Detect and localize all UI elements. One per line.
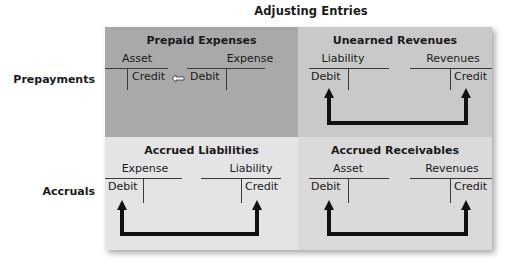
t-account-divider [348,178,349,203]
t-account-divider [143,178,144,203]
t-account-divider [450,68,451,90]
t-account-name-liability: Liability [308,52,378,65]
cell-title: Accrued Liabilities [105,144,298,157]
t-account-name-expense: Expense [107,162,183,175]
t-account-top-line [309,178,389,179]
t-account-top-line [309,68,389,69]
t-account-side-debit: Debit [311,180,341,193]
t-account-divider [241,178,242,203]
bracket-arrow-connector [327,209,468,236]
t-account-name-asset: Asset [107,52,167,65]
t-account-divider [226,68,227,90]
adjusting-entries-grid: Prepaid Expenses Asset Credit Expense De… [105,27,492,250]
t-account-name-revenues: Revenues [411,162,493,175]
row-label-prepayments: Prepayments [0,73,95,86]
bracket-arrow-connector [120,209,259,236]
t-account-top-line [105,68,168,69]
cell-prepaid-expenses: Prepaid Expenses Asset Credit Expense De… [105,27,298,137]
t-account-side-credit: Credit [454,70,487,83]
cell-unearned-revenues: Unearned Revenues Liability Debit Revenu… [298,27,492,137]
t-account-name-liability: Liability [211,162,291,175]
diagram-title: Adjusting Entries [0,4,522,18]
t-account-side-debit: Debit [311,70,341,83]
cell-accrued-receivables: Accrued Receivables Asset Debit Revenues… [298,137,492,250]
bracket-arrow-connector [327,97,468,125]
t-account-divider [348,68,349,90]
t-account-side-credit: Credit [132,70,165,83]
cell-title: Unearned Revenues [298,34,492,47]
t-account-side-credit: Credit [454,180,487,193]
t-account-name-revenues: Revenues [413,52,493,65]
cell-title: Prepaid Expenses [105,34,298,47]
t-account-divider [450,178,451,203]
t-account-top-line [410,68,492,69]
t-account-side-debit: Debit [108,180,138,193]
t-account-name-expense: Expense [215,52,285,65]
t-account-side-credit: Credit [245,180,278,193]
t-account-divider [127,68,128,90]
t-account-top-line [410,178,492,179]
cell-accrued-liabilities: Accrued Liabilities Expense Debit Liabil… [105,137,298,250]
t-account-side-debit: Debit [190,70,220,83]
row-label-accruals: Accruals [0,185,95,198]
left-arrow-icon [171,74,185,83]
t-account-name-asset: Asset [308,162,388,175]
cell-title: Accrued Receivables [298,144,492,157]
